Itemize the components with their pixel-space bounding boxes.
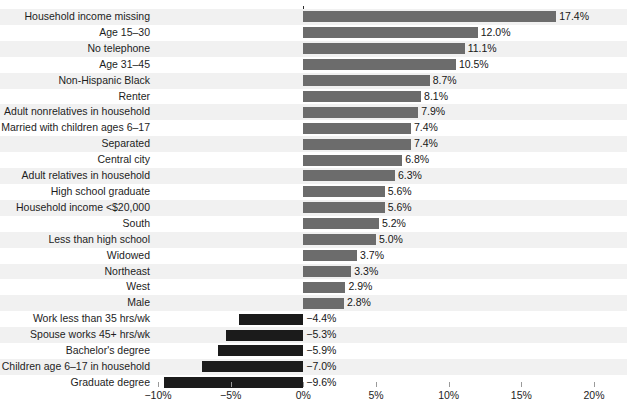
category-label: No telephone: [0, 41, 154, 57]
bar: [303, 186, 384, 197]
category-label: South: [0, 216, 154, 232]
category-label: Widowed: [0, 248, 154, 264]
bar-row: South5.2%: [0, 216, 627, 232]
x-axis-tick: [594, 382, 595, 387]
category-label: Male: [0, 295, 154, 311]
bar-value-label: 7.4%: [414, 120, 438, 136]
category-label: West: [0, 279, 154, 295]
x-axis-tick-label: 20%: [564, 389, 624, 401]
bar-value-label: 5.6%: [388, 184, 412, 200]
bar-value-label: 6.3%: [398, 168, 422, 184]
bar-value-label: 5.0%: [379, 232, 403, 248]
x-axis-tick-label: 15%: [491, 389, 551, 401]
bar: [202, 361, 304, 372]
bar: [303, 139, 411, 150]
category-label: Renter: [0, 89, 154, 105]
bar-row: No telephone11.1%: [0, 41, 627, 57]
bar-row: Household income missing17.4%: [0, 9, 627, 25]
bar: [303, 11, 556, 22]
bar-row: High school graduate5.6%: [0, 184, 627, 200]
bar-row: Renter8.1%: [0, 89, 627, 105]
x-axis-tick: [521, 382, 522, 387]
bar-value-label: 2.9%: [348, 279, 372, 295]
category-label: Non-Hispanic Black: [0, 73, 154, 89]
bar-value-label: 5.6%: [388, 200, 412, 216]
x-axis-tick: [449, 382, 450, 387]
bar: [303, 123, 411, 134]
bar: [303, 107, 418, 118]
category-label: Adult nonrelatives in household: [0, 104, 154, 120]
bar-row: Male2.8%: [0, 295, 627, 311]
bar-row: Spouse works 45+ hrs/wk−5.3%: [0, 327, 627, 343]
x-axis-tick: [158, 382, 159, 387]
bar-value-label: 3.7%: [360, 248, 384, 264]
bar: [303, 234, 376, 245]
bar-value-label: 2.8%: [347, 295, 371, 311]
bar: [239, 314, 303, 325]
category-label: Central city: [0, 152, 154, 168]
bar: [226, 330, 303, 341]
bar-value-label: 5.2%: [382, 216, 406, 232]
bar: [164, 377, 304, 388]
bar-value-label: 11.1%: [468, 41, 497, 57]
x-axis-tick: [303, 382, 304, 387]
category-label: Household income <$20,000: [0, 200, 154, 216]
category-label: Work less than 35 hrs/wk: [0, 311, 154, 327]
x-axis-tick: [376, 382, 377, 387]
category-label: High school graduate: [0, 184, 154, 200]
bar: [218, 345, 304, 356]
bar-value-label: −5.9%: [306, 343, 336, 359]
x-axis-tick-label: −5%: [201, 389, 261, 401]
category-label: Married with children ages 6–17: [0, 120, 154, 136]
bar-row: Central city6.8%: [0, 152, 627, 168]
category-label: Age 31–45: [0, 57, 154, 73]
bar: [303, 266, 351, 277]
bar: [303, 218, 379, 229]
bar: [303, 282, 345, 293]
x-axis-tick-label: 10%: [419, 389, 479, 401]
bar-value-label: −5.3%: [306, 327, 336, 343]
horizontal-bar-chart: Household income missing17.4%Age 15–3012…: [0, 0, 627, 414]
bar-value-label: 17.4%: [559, 9, 589, 25]
category-label: Children age 6–17 in household: [0, 359, 154, 375]
bar-row: Work less than 35 hrs/wk−4.4%: [0, 311, 627, 327]
category-label: Adult relatives in household: [0, 168, 154, 184]
bar: [303, 202, 384, 213]
bar-row: Age 31–4510.5%: [0, 57, 627, 73]
category-label: Less than high school: [0, 232, 154, 248]
bar-value-label: 8.1%: [424, 89, 448, 105]
bar-value-label: −4.4%: [306, 311, 336, 327]
bar: [303, 75, 429, 86]
category-label: Separated: [0, 136, 154, 152]
bar: [303, 59, 456, 70]
bar: [303, 91, 421, 102]
bar: [303, 27, 477, 38]
bar-value-label: 6.8%: [405, 152, 429, 168]
x-axis-tick-label: −10%: [128, 389, 188, 401]
bar-row: West2.9%: [0, 279, 627, 295]
x-axis-tick-label: 0%: [273, 389, 333, 401]
chart-title: [0, 0, 627, 3]
bar-row: Adult relatives in household6.3%: [0, 168, 627, 184]
bar: [303, 43, 464, 54]
bar: [303, 250, 357, 261]
bar-row: Household income <$20,0005.6%: [0, 200, 627, 216]
bar-value-label: 10.5%: [459, 57, 489, 73]
category-label: Northeast: [0, 264, 154, 280]
bar: [303, 170, 395, 181]
bar-row: Separated7.4%: [0, 136, 627, 152]
x-axis-tick-label: 5%: [346, 389, 406, 401]
bar-row: Widowed3.7%: [0, 248, 627, 264]
bar-value-label: 8.7%: [433, 73, 457, 89]
chart-rows: Household income missing17.4%Age 15–3012…: [0, 9, 627, 391]
bar-row: Adult nonrelatives in household7.9%: [0, 104, 627, 120]
bar-value-label: 12.0%: [481, 25, 511, 41]
category-label: Household income missing: [0, 9, 154, 25]
bar-value-label: 7.9%: [421, 104, 445, 120]
bar-value-label: −7.0%: [306, 359, 336, 375]
bar-row: Bachelor's degree−5.9%: [0, 343, 627, 359]
bar-row: Children age 6–17 in household−7.0%: [0, 359, 627, 375]
bar-row: Less than high school5.0%: [0, 232, 627, 248]
category-label: Bachelor's degree: [0, 343, 154, 359]
bar-value-label: 3.3%: [354, 264, 378, 280]
